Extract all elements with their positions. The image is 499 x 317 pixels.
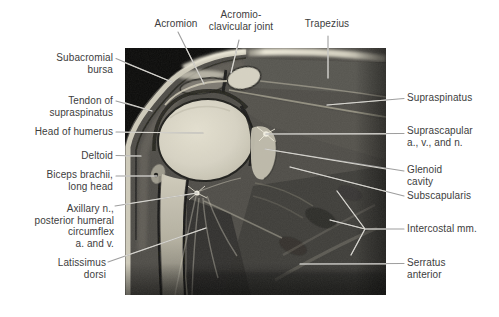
label-line: dorsi: [58, 269, 106, 281]
label-line: Axillary n.,: [34, 203, 114, 215]
label-glenoid-cavity: Glenoid cavity: [407, 164, 442, 187]
label-line: Glenoid: [407, 164, 442, 176]
label-suprascapular-vessels-nerve: Suprascapular a., v., and n.: [407, 125, 473, 148]
label-line: Suprascapular: [407, 125, 473, 137]
mri-image: [125, 48, 386, 295]
label-line: Supraspinatus: [407, 92, 472, 104]
label-biceps-brachii-long-head: Biceps brachii, long head: [46, 169, 113, 192]
label-axillary-nerve-circumflex-vessels: Axillary n., posterior humeral circumfle…: [34, 203, 114, 249]
label-trapezius: Trapezius: [305, 18, 349, 30]
label-subscapularis: Subscapularis: [407, 190, 471, 202]
label-subacromial-bursa: Subacromial bursa: [56, 52, 113, 75]
label-deltoid: Deltoid: [81, 150, 113, 162]
label-line: Acromio-: [209, 9, 273, 21]
label-line: Subscapularis: [407, 190, 471, 202]
label-acromioclavicular-joint: Acromio- clavicular joint: [209, 9, 273, 32]
label-supraspinatus: Supraspinatus: [407, 92, 472, 104]
label-line: Tendon of: [49, 95, 113, 107]
film-grain: [125, 48, 386, 295]
label-acromion: Acromion: [154, 18, 197, 30]
label-line: long head: [46, 181, 113, 193]
label-tendon-of-supraspinatus: Tendon of supraspinatus: [49, 95, 113, 118]
label-line: supraspinatus: [49, 107, 113, 119]
label-line: a. and v.: [34, 238, 114, 250]
label-line: bursa: [56, 64, 113, 76]
label-line: posterior humeral: [34, 215, 114, 227]
label-line: Head of humerus: [35, 126, 113, 138]
label-line: Trapezius: [305, 18, 349, 30]
label-latissimus-dorsi: Latissimus dorsi: [58, 257, 106, 280]
label-line: clavicular joint: [209, 21, 273, 33]
label-line: Deltoid: [81, 150, 113, 162]
label-head-of-humerus: Head of humerus: [35, 126, 113, 138]
label-line: Latissimus: [58, 257, 106, 269]
figure-canvas: Acromion Acromio- clavicular joint Trape…: [0, 0, 499, 317]
label-line: cavity: [407, 176, 442, 188]
label-line: Serratus: [407, 257, 446, 269]
label-line: anterior: [407, 269, 446, 281]
label-line: Acromion: [154, 18, 197, 30]
label-serratus-anterior: Serratus anterior: [407, 257, 446, 280]
label-line: Subacromial: [56, 52, 113, 64]
label-line: circumflex: [34, 226, 114, 238]
label-intercostal-muscles: Intercostal mm.: [407, 223, 477, 235]
label-line: a., v., and n.: [407, 137, 473, 149]
label-line: Intercostal mm.: [407, 223, 477, 235]
label-line: Biceps brachii,: [46, 169, 113, 181]
